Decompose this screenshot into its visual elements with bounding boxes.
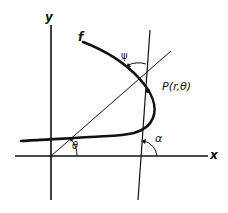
polar-tangent-diagram: y x f P(r,θ) ψ θ α	[0, 0, 228, 213]
alpha-label: α	[155, 133, 162, 144]
curve-label: f	[78, 31, 83, 43]
point-p	[146, 89, 150, 93]
x-axis-label: x	[210, 149, 218, 161]
y-axis-label: y	[45, 11, 53, 23]
theta-label: θ	[72, 141, 78, 151]
diagram-canvas	[0, 0, 228, 213]
point-label: P(r,θ)	[162, 81, 191, 92]
curve-f	[21, 42, 155, 141]
psi-arc	[128, 63, 146, 65]
psi-label: ψ	[121, 51, 128, 61]
tangent-line	[138, 30, 150, 200]
